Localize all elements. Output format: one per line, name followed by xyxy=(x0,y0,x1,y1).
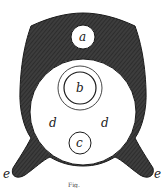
label-a: a xyxy=(79,30,86,44)
figure-caption: Fig. xyxy=(68,181,80,188)
label-e-left: e xyxy=(3,167,10,181)
cross-section-diagram: a b c d d e e Fig. xyxy=(0,0,166,188)
label-b: b xyxy=(76,81,84,95)
label-d-left: d xyxy=(49,116,57,130)
label-c: c xyxy=(76,136,83,150)
label-e-right: e xyxy=(154,167,161,181)
label-d-right: d xyxy=(101,116,109,130)
